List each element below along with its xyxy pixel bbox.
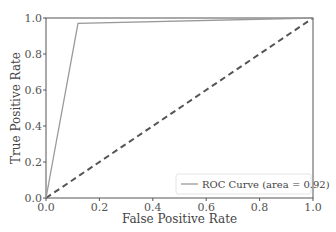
y-tick-label: 0.2 (25, 156, 43, 169)
y-tick-label: 0.8 (25, 48, 43, 61)
chance-line (46, 18, 313, 198)
y-tick-label: 0.6 (25, 84, 43, 97)
y-tick-label: 0.4 (25, 120, 43, 133)
x-tick-label: 0.0 (37, 201, 55, 214)
x-tick-label: 0.2 (91, 201, 109, 214)
x-tick-label: 1.0 (304, 201, 322, 214)
y-tick-label: 1.0 (25, 12, 43, 25)
x-tick-label: 0.8 (251, 201, 269, 214)
y-axis: 0.0 0.2 0.4 0.6 0.8 1.0 (25, 12, 47, 205)
x-axis-label: False Positive Rate (122, 212, 237, 226)
y-axis-label: True Positive Rate (9, 52, 23, 164)
legend: ROC Curve (area = 0.92) (176, 174, 330, 194)
roc-chart: 0.0 0.2 0.4 0.6 0.8 1.0 0.0 0.2 0.4 0.6 … (0, 0, 336, 232)
legend-label: ROC Curve (area = 0.92) (202, 179, 330, 190)
